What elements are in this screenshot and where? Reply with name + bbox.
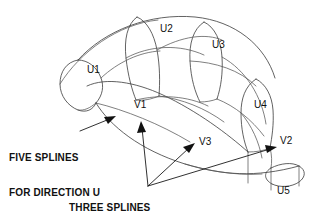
annotation-u-line1: FIVE SPLINES xyxy=(9,152,100,164)
label-v3: V3 xyxy=(199,136,211,148)
label-u4: U4 xyxy=(254,99,267,111)
label-u2: U2 xyxy=(160,23,173,35)
label-v1: V1 xyxy=(134,99,146,111)
leader-three-splines-v1 xyxy=(137,121,148,186)
label-v2: V2 xyxy=(280,135,292,147)
u-spline-3 xyxy=(190,22,222,102)
v-spline-1 xyxy=(78,16,275,78)
arrowhead-v1 xyxy=(137,121,146,133)
label-u5: U5 xyxy=(277,185,290,197)
arrowhead-u xyxy=(104,116,116,124)
label-u3: U3 xyxy=(212,39,225,51)
label-u1: U1 xyxy=(87,64,100,76)
spline-surface-diagram: U1 U2 U3 U4 U5 V1 V2 V3 FIVE SPLINES FOR… xyxy=(0,0,318,214)
annotation-three-splines-v: THREE SPLINES FOR DIRECTION V xyxy=(69,178,160,214)
annotation-v-line1: THREE SPLINES xyxy=(69,202,160,214)
